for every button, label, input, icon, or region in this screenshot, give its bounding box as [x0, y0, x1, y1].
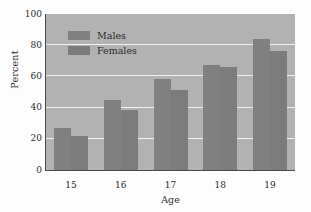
bar-group	[154, 14, 188, 170]
legend-item-females: Females	[68, 43, 137, 58]
x-tick-label: 17	[165, 180, 176, 190]
bar-females-age-19	[270, 51, 287, 170]
bar-chart-figure: Percent 020406080100 Males Females 15161…	[0, 0, 311, 212]
x-axis-title: Age	[46, 194, 295, 205]
y-tick-label: 20	[16, 134, 42, 143]
bar-males-age-19	[253, 39, 270, 170]
y-axis-tick-labels: 020406080100	[14, 0, 42, 212]
x-axis-spine	[45, 170, 295, 171]
bar-males-age-16	[104, 100, 121, 170]
x-tick-label: 15	[65, 180, 76, 190]
bar-males-age-17	[154, 79, 171, 170]
bar-females-age-18	[220, 67, 237, 170]
y-axis-spine	[45, 14, 46, 171]
legend: Males Females	[68, 28, 137, 58]
y-tick-label: 80	[16, 41, 42, 50]
bar-females-age-17	[171, 90, 188, 170]
bar-group	[253, 14, 287, 170]
bar-males-age-15	[54, 128, 71, 170]
y-tick-label: 40	[16, 103, 42, 112]
y-tick-label: 0	[16, 166, 42, 175]
legend-swatch-males-icon	[68, 31, 90, 40]
bar-group	[203, 14, 237, 170]
legend-label-females: Females	[97, 45, 137, 56]
legend-item-males: Males	[68, 28, 137, 43]
x-tick-label: 18	[215, 180, 226, 190]
x-tick-label: 16	[115, 180, 126, 190]
legend-swatch-females-icon	[68, 46, 90, 55]
y-tick-label: 100	[16, 10, 42, 19]
bar-females-age-15	[71, 136, 88, 170]
bar-males-age-18	[203, 65, 220, 170]
plot-area: Males Females	[46, 14, 295, 170]
x-tick-label: 19	[264, 180, 275, 190]
y-tick-label: 60	[16, 72, 42, 81]
bar-females-age-16	[121, 110, 138, 170]
legend-label-males: Males	[97, 30, 126, 41]
